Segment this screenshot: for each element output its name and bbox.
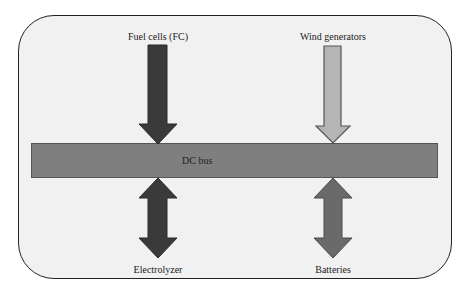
fuel-cells-arrow xyxy=(139,45,177,144)
electrolyzer-arrow xyxy=(139,178,177,258)
electrolyzer-label: Electrolyzer xyxy=(134,264,183,275)
wind-generators-arrow xyxy=(316,46,350,143)
batteries-arrow xyxy=(314,178,352,258)
arrows-layer xyxy=(0,0,468,296)
batteries-label: Batteries xyxy=(315,264,351,275)
